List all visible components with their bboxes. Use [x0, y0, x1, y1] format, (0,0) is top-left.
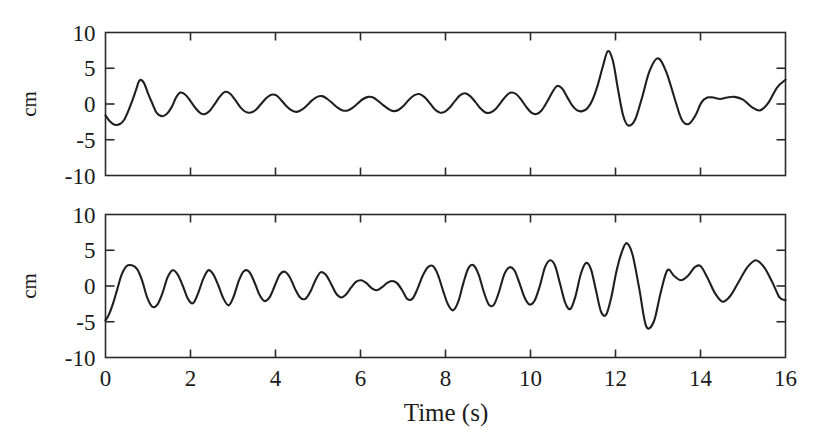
bottom-y-axis-title: cm [17, 273, 41, 299]
two-panel-timeseries-chart: -10-50510 cm -10-50510 0246810121416 cm … [0, 0, 826, 439]
x-tick-label: 14 [689, 366, 713, 391]
x-tick-label: 6 [355, 366, 367, 391]
x-tick-label: 0 [100, 366, 112, 391]
x-tick-label: 12 [604, 366, 627, 391]
x-tick-label: 10 [519, 366, 542, 391]
top-y-axis-title: cm [17, 91, 41, 117]
x-tick-label: 4 [270, 366, 282, 391]
figure-container: -10-50510 cm -10-50510 0246810121416 cm … [0, 0, 826, 439]
y-tick-label: 0 [84, 92, 96, 117]
y-tick-label: -5 [76, 310, 95, 335]
y-tick-label: -10 [65, 346, 96, 371]
y-tick-label: 10 [73, 203, 96, 228]
x-tick-label: 8 [440, 366, 452, 391]
y-tick-label: -5 [76, 128, 95, 153]
y-tick-label: 10 [73, 21, 96, 46]
y-tick-label: -10 [65, 164, 96, 189]
x-axis-title: Time (s) [404, 399, 489, 427]
y-tick-label: 5 [84, 238, 96, 263]
y-tick-label: 5 [84, 56, 96, 81]
y-tick-label: 0 [84, 274, 96, 299]
x-tick-label: 16 [774, 366, 797, 391]
x-tick-label: 2 [185, 366, 197, 391]
